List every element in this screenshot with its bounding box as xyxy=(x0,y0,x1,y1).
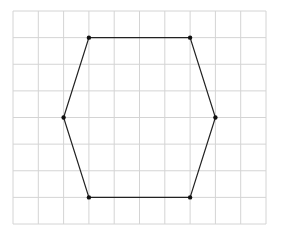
vertex-point xyxy=(61,115,65,119)
vertex-point xyxy=(87,195,91,199)
grid xyxy=(0,0,283,236)
vertex-point xyxy=(188,195,192,199)
vertex-point xyxy=(188,35,192,39)
diagram-canvas xyxy=(0,0,283,236)
grid-lines xyxy=(13,11,266,224)
vertex-point xyxy=(213,115,217,119)
vertex-point xyxy=(87,35,91,39)
